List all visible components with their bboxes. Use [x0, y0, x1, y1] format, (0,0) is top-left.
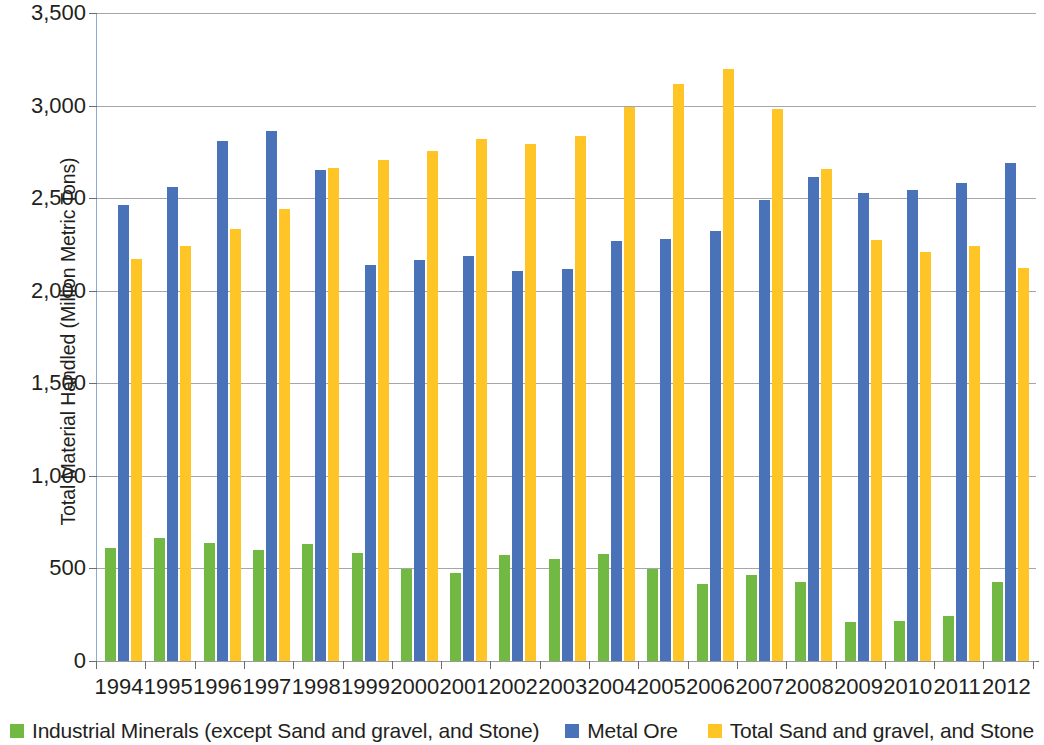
bar[interactable]	[759, 200, 770, 661]
bar[interactable]	[302, 544, 313, 661]
bar[interactable]	[525, 144, 536, 661]
bar-group	[894, 13, 931, 661]
bar[interactable]	[512, 271, 523, 661]
bar[interactable]	[562, 269, 573, 661]
bar[interactable]	[1005, 163, 1016, 661]
bar[interactable]	[401, 569, 412, 661]
bar[interactable]	[598, 554, 609, 661]
bar[interactable]	[217, 141, 228, 661]
chart-legend: Industrial Minerals (except Sand and gra…	[10, 718, 1040, 744]
bar[interactable]	[204, 543, 215, 661]
bar[interactable]	[315, 170, 326, 661]
bar[interactable]	[697, 584, 708, 661]
bar-group	[647, 13, 684, 661]
bar[interactable]	[673, 84, 684, 661]
x-axis-tick-label: 2012	[971, 674, 1041, 700]
bar[interactable]	[463, 256, 474, 661]
bar-group	[401, 13, 438, 661]
y-axis-tick-label: 3,000	[0, 95, 86, 117]
bar-group	[302, 13, 339, 661]
bar-group	[845, 13, 882, 661]
x-axis-tick	[145, 661, 146, 669]
bar[interactable]	[795, 582, 806, 661]
bar[interactable]	[871, 240, 882, 661]
bar-group	[204, 13, 241, 661]
bar[interactable]	[499, 555, 510, 661]
bar-chart: Total Material Handled (Million Metric T…	[0, 0, 1044, 745]
bar[interactable]	[549, 559, 560, 661]
x-axis-tick	[737, 661, 738, 669]
bar[interactable]	[476, 139, 487, 661]
x-axis-tick	[392, 661, 393, 669]
bar[interactable]	[647, 569, 658, 661]
bar[interactable]	[943, 616, 954, 661]
bar-group	[943, 13, 980, 661]
bar[interactable]	[894, 621, 905, 661]
bar[interactable]	[956, 183, 967, 661]
x-axis-tick	[441, 661, 442, 669]
y-axis-tick-label: 2,000	[0, 280, 86, 302]
x-axis-tick	[688, 661, 689, 669]
bar[interactable]	[328, 168, 339, 661]
bar-group	[795, 13, 832, 661]
x-axis-tick	[293, 661, 294, 669]
bar[interactable]	[907, 190, 918, 661]
bar-group	[450, 13, 487, 661]
bar[interactable]	[279, 209, 290, 661]
bar[interactable]	[266, 131, 277, 661]
bar[interactable]	[180, 246, 191, 661]
y-axis-tick-label: 1,000	[0, 465, 86, 487]
bar[interactable]	[118, 205, 129, 661]
bar[interactable]	[167, 187, 178, 661]
bar[interactable]	[427, 151, 438, 661]
bar[interactable]	[992, 582, 1003, 661]
bar[interactable]	[450, 573, 461, 661]
bar[interactable]	[154, 538, 165, 661]
bar[interactable]	[365, 265, 376, 661]
bar-group	[598, 13, 635, 661]
legend-item[interactable]: Metal Ore	[565, 719, 677, 743]
bar[interactable]	[969, 246, 980, 661]
bar[interactable]	[858, 193, 869, 661]
bar[interactable]	[352, 553, 363, 661]
bar[interactable]	[660, 239, 671, 661]
bar[interactable]	[131, 259, 142, 661]
legend-item[interactable]: Industrial Minerals (except Sand and gra…	[10, 719, 539, 743]
bar-group	[499, 13, 536, 661]
bar[interactable]	[253, 550, 264, 661]
legend-label: Industrial Minerals (except Sand and gra…	[32, 719, 539, 743]
x-axis-tick	[934, 661, 935, 669]
y-axis-tick	[89, 383, 97, 384]
bar[interactable]	[821, 169, 832, 661]
y-axis-tick-label: 3,500	[0, 2, 86, 24]
bar-group	[352, 13, 389, 661]
bar[interactable]	[1018, 268, 1029, 661]
plot-area	[97, 13, 1036, 661]
legend-item[interactable]: Total Sand and gravel, and Stone	[708, 719, 1034, 743]
bar[interactable]	[378, 160, 389, 661]
bar[interactable]	[723, 69, 734, 661]
bar[interactable]	[920, 252, 931, 661]
y-axis-tick-label: 2,500	[0, 187, 86, 209]
bar[interactable]	[772, 109, 783, 661]
bar[interactable]	[746, 575, 757, 661]
gridline	[97, 661, 1036, 662]
y-axis-tick-label: 1,500	[0, 372, 86, 394]
bar[interactable]	[414, 260, 425, 661]
legend-swatch-icon	[10, 724, 24, 738]
bar[interactable]	[611, 241, 622, 661]
bar[interactable]	[105, 548, 116, 661]
bar-group	[549, 13, 586, 661]
y-axis-title: Total Material Handled (Million Metric T…	[57, 42, 80, 642]
bar[interactable]	[710, 231, 721, 661]
legend-label: Metal Ore	[587, 719, 677, 743]
bar[interactable]	[575, 136, 586, 661]
bar[interactable]	[624, 107, 635, 661]
x-axis-tick	[589, 661, 590, 669]
bar[interactable]	[845, 622, 856, 661]
y-axis-tick	[89, 291, 97, 292]
bar[interactable]	[230, 229, 241, 661]
x-axis-tick	[195, 661, 196, 669]
x-axis-tick	[244, 661, 245, 669]
bar[interactable]	[808, 177, 819, 661]
